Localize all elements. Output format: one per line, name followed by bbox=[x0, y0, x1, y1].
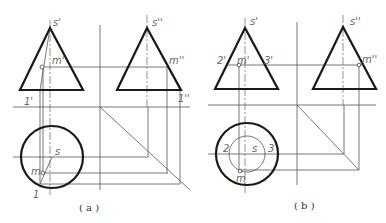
label-s-front: s' bbox=[53, 17, 61, 28]
45-degree-line bbox=[100, 107, 190, 190]
label-m-side: m'' bbox=[169, 55, 184, 66]
m-side-point-b bbox=[357, 63, 361, 67]
label-m-side-b: m'' bbox=[362, 54, 377, 65]
figure-a: s' m' 1' s'' m'' 1'' s m 1 ( a ) bbox=[13, 15, 190, 213]
label-s-top: s bbox=[55, 146, 60, 157]
label-1-side: 1'' bbox=[178, 93, 190, 104]
45-degree-line-b bbox=[297, 105, 359, 170]
label-m-top: m bbox=[31, 166, 41, 177]
label-s-top-b: s bbox=[252, 143, 257, 154]
m-top-point bbox=[41, 171, 45, 175]
label-3-top-b: 3 bbox=[268, 143, 274, 154]
label-m-front: m' bbox=[52, 55, 65, 66]
label-m-front-b: m' bbox=[237, 55, 250, 66]
label-s-side: s'' bbox=[152, 17, 163, 28]
label-s-front-b: s' bbox=[250, 16, 258, 27]
caption-a: ( a ) bbox=[79, 202, 99, 213]
label-3-front-b: 3' bbox=[264, 55, 273, 66]
label-2-top-b: 2 bbox=[223, 143, 229, 154]
label-m-top-b: m bbox=[236, 173, 246, 184]
cone-projection-diagram: s' m' 1' s'' m'' 1'' s m 1 ( a ) s' m' 2… bbox=[0, 0, 386, 223]
label-2-front-b: 2' bbox=[217, 55, 226, 66]
caption-b: ( b ) bbox=[294, 200, 315, 211]
label-1-top: 1 bbox=[33, 189, 39, 200]
label-s-side-b: s'' bbox=[350, 16, 361, 27]
label-1-front: 1' bbox=[24, 96, 33, 107]
m-front-point bbox=[40, 65, 44, 69]
figure-b: s' m' 2' 3' s'' m'' s 2 3 m ( b ) bbox=[208, 15, 377, 211]
